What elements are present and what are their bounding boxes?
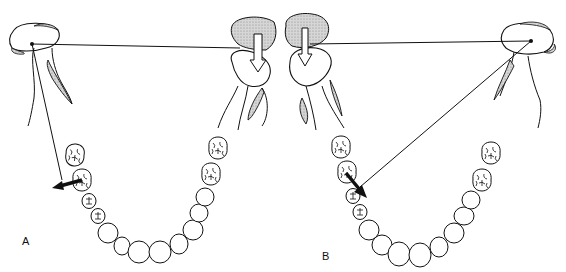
panel-b	[285, 14, 555, 268]
panel-a	[10, 17, 276, 263]
right-condyle-b	[494, 22, 556, 128]
panel-label-b: B	[322, 250, 329, 262]
right-condyle-a	[218, 17, 276, 130]
left-condyle-b	[285, 14, 344, 131]
radius-line-b	[360, 41, 531, 187]
left-condyle-a	[10, 23, 72, 126]
intercondylar-line-b	[310, 41, 531, 44]
panel-label-a: A	[22, 235, 29, 247]
mandible-diagram	[0, 0, 566, 272]
intercondylar-line-a	[32, 44, 240, 48]
dental-arch-b	[332, 136, 500, 267]
dental-arch-a	[65, 137, 227, 263]
